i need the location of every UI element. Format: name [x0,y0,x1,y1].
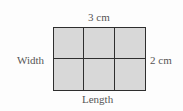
grid-cell [84,59,114,90]
length-measurement-label: 3 cm [88,11,110,23]
grid-cell [54,59,84,90]
rectangle-grid [53,27,146,91]
grid-cell [115,28,145,59]
width-measurement-label: 2 cm [150,54,172,66]
width-axis-label: Width [17,54,44,66]
grid-cell [54,28,84,59]
grid-cell [84,28,114,59]
length-axis-label: Length [82,93,113,105]
grid-cell [115,59,145,90]
